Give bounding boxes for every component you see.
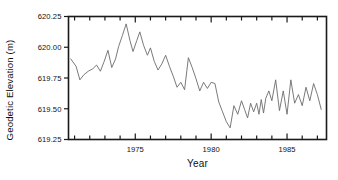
y-tick-label: 620.00 — [38, 43, 62, 52]
plot-svg: 619.25619.50619.75620.00620.25 197519801… — [0, 0, 338, 180]
y-tick-label: 619.50 — [38, 105, 62, 114]
data-series-line — [71, 24, 321, 128]
x-tick-label-group: 197519801985 — [127, 145, 296, 154]
x-tick-label: 1985 — [278, 145, 295, 154]
y-tick-label-group: 619.25619.50619.75620.00620.25 — [38, 12, 62, 144]
chart-figure: Geodetic Elevation (m) Year 619.25619.50… — [0, 0, 338, 180]
plot-frame — [69, 17, 327, 140]
x-tick-label: 1980 — [203, 145, 220, 154]
x-tick-mark-group-top — [75, 17, 318, 23]
x-tick-mark-group-bottom — [75, 134, 318, 140]
y-tick-label: 619.25 — [38, 135, 62, 144]
y-tick-label: 620.25 — [38, 12, 62, 21]
x-tick-label: 1975 — [127, 145, 144, 154]
y-tick-label: 619.75 — [38, 74, 62, 83]
